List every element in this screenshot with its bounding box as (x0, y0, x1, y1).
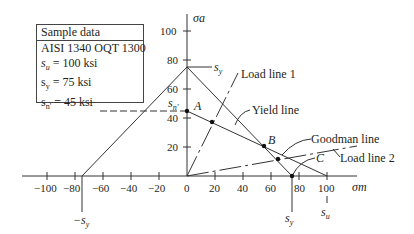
x-tick-100: 100 (318, 183, 335, 194)
su-bottom-label: su (321, 206, 330, 223)
sample-data-material: AISI 1340 OQT 1300 (37, 41, 143, 56)
goodman-line-leader (282, 139, 311, 155)
point-b-label: B (268, 134, 275, 146)
x-tick-neg40: −40 (120, 183, 137, 194)
x-axis-label: σm (352, 181, 367, 193)
y-axis-label: σa (193, 12, 205, 24)
point-b (262, 144, 266, 148)
sn-label: sn' (168, 97, 178, 114)
sample-data-su: su = 100 ksi (37, 56, 143, 75)
sample-data-sn: sn' = 45 ksi (37, 95, 143, 114)
sample-data-box: Sample data AISI 1340 OQT 1300 su = 100 … (36, 24, 144, 103)
load-line-2-leader (333, 149, 340, 157)
y-tick-100: 100 (160, 26, 177, 37)
yield-line-label: Yield line (252, 104, 299, 116)
x-tick-neg60: −60 (92, 183, 109, 194)
yield-line-leader (235, 110, 250, 125)
point-a (185, 109, 189, 113)
point-load1-yield (210, 120, 214, 124)
point-c (290, 174, 294, 178)
sample-data-sy: sy = 75 ksi (37, 75, 143, 94)
x-tick-20: 20 (209, 183, 220, 194)
y-tick-80: 80 (167, 55, 178, 66)
y-tick-60: 60 (167, 84, 178, 95)
sy-bottom-label: sy (285, 212, 293, 229)
sample-data-header: Sample data (37, 25, 143, 41)
load-line-2-label: Load line 2 (340, 152, 395, 164)
x-tick-0: 0 (184, 183, 190, 194)
point-c-label: C (316, 152, 324, 164)
neg-sy-label: −sy (73, 214, 89, 231)
x-tick-neg20: −20 (148, 183, 165, 194)
point-load2-goodman (276, 157, 280, 161)
goodman-line-label: Goodman line (311, 133, 379, 145)
point-a-label: A (194, 100, 201, 112)
x-tick-60: 60 (265, 183, 276, 194)
y-tick-40: 40 (167, 113, 178, 124)
goodman-line (187, 111, 327, 176)
c-leader (292, 158, 315, 176)
x-tick-neg80: −80 (63, 183, 80, 194)
y-tick-20: 20 (167, 142, 178, 153)
sy-top-label: sy (214, 61, 222, 78)
x-tick-80: 80 (294, 183, 305, 194)
x-tick-neg100: −100 (34, 183, 57, 194)
load-line-1 (187, 73, 238, 176)
load-line-1-label: Load line 1 (241, 68, 296, 80)
x-tick-40: 40 (237, 183, 248, 194)
